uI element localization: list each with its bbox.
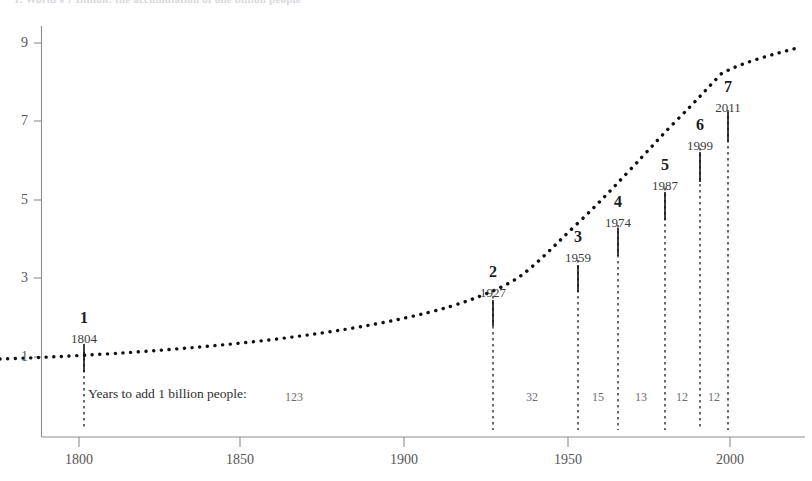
population-curve bbox=[0, 48, 797, 359]
milestone-number-2: 2 bbox=[473, 263, 513, 281]
milestone-year-4: 1974 bbox=[593, 215, 643, 231]
milestone-year-5: 1987 bbox=[640, 178, 690, 194]
gap-label-13: 13 bbox=[621, 390, 661, 405]
milestone-number-6: 6 bbox=[680, 116, 720, 134]
milestone-number-1: 1 bbox=[64, 309, 104, 327]
milestone-year-2: 1927 bbox=[468, 285, 518, 301]
milestone-number-5: 5 bbox=[645, 156, 685, 174]
x-tick-label-1950: 1950 bbox=[538, 452, 598, 468]
chart-page: 1. World's 7 Billion: the accumulation o… bbox=[0, 0, 812, 481]
years-to-add-label: Years to add 1 billion people: bbox=[88, 386, 247, 402]
gap-label-123: 123 bbox=[274, 390, 314, 405]
y-tick-marks bbox=[34, 43, 42, 357]
x-tick-label-1800: 1800 bbox=[49, 452, 109, 468]
x-tick-marks bbox=[79, 437, 730, 447]
y-tick-label-7: 7 bbox=[2, 113, 28, 129]
milestone-year-1: 1804 bbox=[59, 331, 109, 347]
x-tick-label-2000: 2000 bbox=[700, 452, 760, 468]
milestone-year-3: 1959 bbox=[553, 250, 603, 266]
y-tick-label-9: 9 bbox=[2, 35, 28, 51]
gap-label-32: 32 bbox=[512, 390, 552, 405]
milestone-guide-lines bbox=[84, 110, 728, 430]
milestone-number-3: 3 bbox=[558, 228, 598, 246]
milestone-year-6: 1999 bbox=[675, 138, 725, 154]
y-tick-label-5: 5 bbox=[2, 192, 28, 208]
milestone-number-7: 7 bbox=[708, 78, 748, 96]
y-tick-label-3: 3 bbox=[2, 270, 28, 286]
milestone-year-7: 2011 bbox=[703, 100, 753, 116]
gap-label-12b: 12 bbox=[694, 390, 734, 405]
milestone-number-4: 4 bbox=[598, 193, 638, 211]
gap-label-15: 15 bbox=[578, 390, 618, 405]
milestone-markers bbox=[84, 112, 728, 372]
x-tick-label-1850: 1850 bbox=[210, 452, 270, 468]
y-tick-label-1: 1 bbox=[2, 349, 28, 365]
x-tick-label-1900: 1900 bbox=[374, 452, 434, 468]
population-growth-chart bbox=[0, 0, 812, 481]
